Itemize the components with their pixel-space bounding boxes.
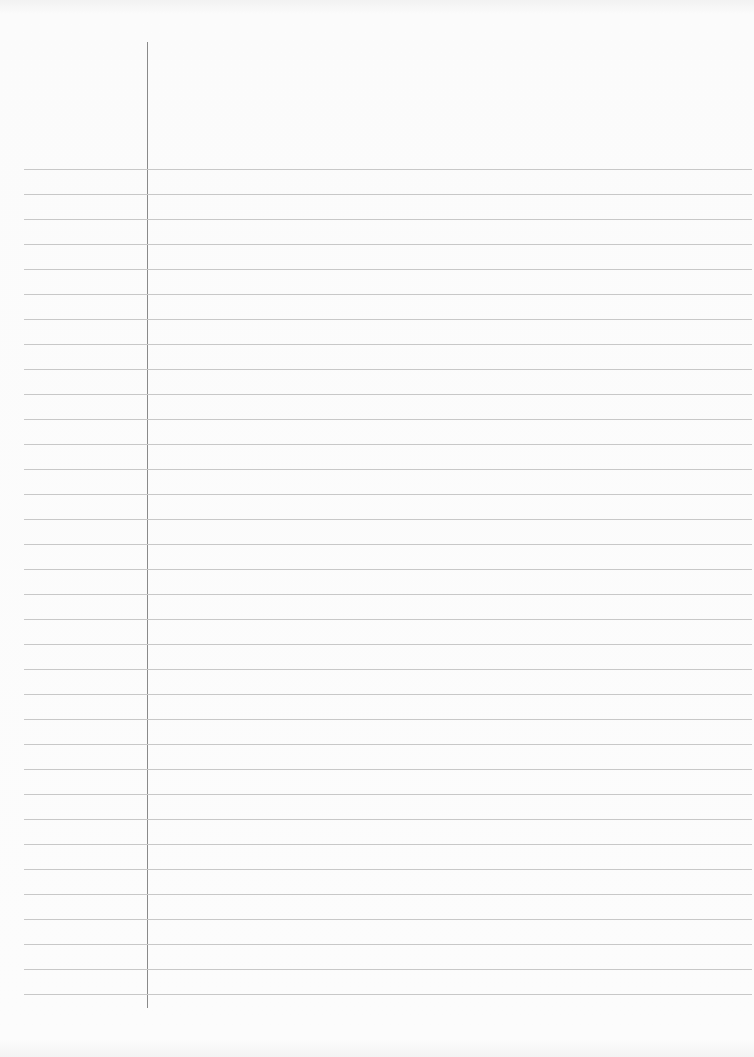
ruled-line: [24, 819, 752, 820]
ruled-line: [24, 444, 752, 445]
ruled-line: [24, 269, 752, 270]
ruled-line: [24, 994, 752, 995]
ruled-line: [24, 319, 752, 320]
ruled-line: [24, 294, 752, 295]
ruled-line: [24, 519, 752, 520]
ruled-line: [24, 169, 752, 170]
ruled-line: [24, 794, 752, 795]
ruled-line: [24, 594, 752, 595]
ruled-line: [24, 369, 752, 370]
margin-line: [147, 42, 148, 1008]
ruled-line: [24, 244, 752, 245]
ruled-line: [24, 344, 752, 345]
ruled-line: [24, 969, 752, 970]
ruled-line: [24, 469, 752, 470]
ruled-paper-sheet: [0, 0, 754, 1057]
ruled-line: [24, 744, 752, 745]
ruled-line: [24, 669, 752, 670]
ruled-line: [24, 394, 752, 395]
ruled-line: [24, 694, 752, 695]
ruled-line: [24, 569, 752, 570]
ruled-line: [24, 219, 752, 220]
ruled-line: [24, 194, 752, 195]
ruled-line: [24, 919, 752, 920]
ruled-line: [24, 894, 752, 895]
ruled-line: [24, 719, 752, 720]
ruled-line: [24, 419, 752, 420]
ruled-line: [24, 494, 752, 495]
ruled-line: [24, 769, 752, 770]
ruled-line: [24, 544, 752, 545]
ruled-line: [24, 644, 752, 645]
ruled-line: [24, 869, 752, 870]
ruled-line: [24, 844, 752, 845]
ruled-line: [24, 944, 752, 945]
ruled-line: [24, 619, 752, 620]
